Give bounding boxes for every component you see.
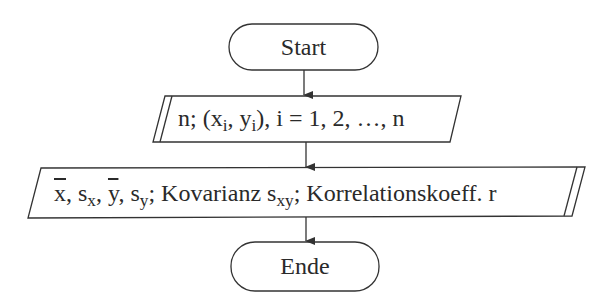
input-double-edge <box>160 96 172 142</box>
output-label: x, sx, y, sy; Kovarianz sxy; Korrelation… <box>54 181 496 209</box>
start-label: Start <box>229 35 378 59</box>
end-label: Ende <box>231 254 379 278</box>
input-label: n; (xi, yi), i = 1, 2, …, n <box>178 106 405 134</box>
output-double-edge <box>564 167 577 216</box>
